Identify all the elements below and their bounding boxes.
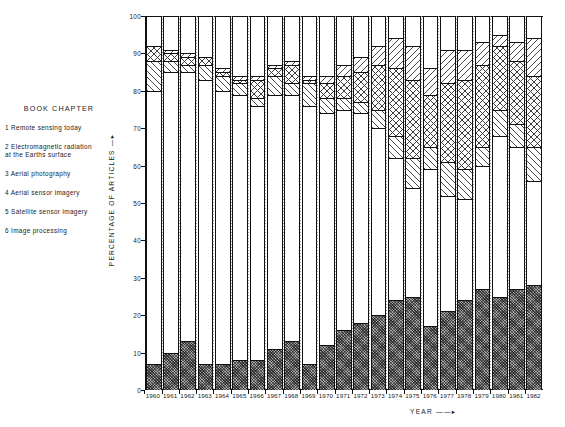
- legend: BOOK CHAPTER 1 Remote sensing today 2 El…: [2, 104, 114, 246]
- bar-segment-ch3: [457, 169, 473, 199]
- x-tick-mark: [162, 390, 163, 394]
- bar-segment-ch3: [336, 98, 352, 109]
- bar-segment-ch6: [509, 16, 525, 42]
- bar-segment-ch6: [284, 16, 300, 61]
- bar-segment-ch2: [526, 181, 542, 286]
- bar-segment-ch5: [492, 35, 508, 46]
- bar-segment-ch6: [388, 16, 404, 38]
- bar-1977: [440, 16, 456, 390]
- bar-segment-ch5: [353, 57, 369, 72]
- bar-segment-ch1: [440, 311, 456, 390]
- x-tick-mark: [456, 390, 457, 394]
- bar-segment-ch6: [371, 16, 387, 46]
- bar-segment-ch1: [457, 300, 473, 390]
- bar-segment-ch2: [388, 158, 404, 300]
- bar-segment-ch6: [163, 16, 179, 50]
- bar-segment-ch2: [353, 113, 369, 322]
- bar-1966: [250, 16, 266, 390]
- bar-segment-ch4: [457, 80, 473, 170]
- bar-segment-ch2: [163, 72, 179, 353]
- bar-segment-ch3: [509, 124, 525, 146]
- bar-1975: [405, 16, 421, 390]
- bar-1961: [163, 16, 179, 390]
- x-tick-mark: [386, 390, 387, 394]
- bar-1962: [180, 16, 196, 390]
- legend-title: BOOK CHAPTER: [4, 104, 114, 113]
- bar-segment-ch2: [457, 199, 473, 300]
- x-tick-mark: [248, 390, 249, 394]
- bar-segment-ch5: [526, 38, 542, 75]
- bar-segment-ch5: [440, 50, 456, 84]
- bar-segment-ch2: [302, 106, 318, 364]
- y-tick-mark: [141, 128, 145, 129]
- legend-item-3: 3 Aerial photography: [2, 170, 114, 178]
- bar-segment-ch6: [267, 16, 283, 65]
- legend-item-4: 4 Aerial sensor imagery: [2, 189, 114, 197]
- x-tick-mark: [421, 390, 422, 394]
- bar-1963: [198, 16, 214, 390]
- bar-segment-ch6: [423, 16, 439, 68]
- x-tick-mark: [438, 390, 439, 394]
- bar-1968: [284, 16, 300, 390]
- bar-segment-ch4: [146, 46, 162, 61]
- bar-segment-ch5: [371, 46, 387, 65]
- y-tick-mark: [141, 240, 145, 241]
- y-tick-mark: [141, 53, 145, 54]
- bar-segment-ch1: [371, 315, 387, 390]
- x-tick-mark: [179, 390, 180, 394]
- x-tick-mark: [473, 390, 474, 394]
- x-axis-title: YEAR ——▸: [410, 408, 456, 416]
- bar-segment-ch3: [353, 102, 369, 113]
- x-tick-mark: [335, 390, 336, 394]
- bar-segment-ch4: [371, 65, 387, 110]
- legend-item-1: 1 Remote sensing today: [2, 124, 114, 132]
- x-tick-mark: [300, 390, 301, 394]
- bar-segment-ch4: [509, 61, 525, 125]
- bar-segment-ch1: [146, 364, 162, 390]
- bar-segment-ch2: [284, 95, 300, 342]
- bar-segment-ch1: [267, 349, 283, 390]
- bar-segment-ch2: [405, 188, 421, 296]
- legend-item-6: 6 Image processing: [2, 227, 114, 235]
- bar-segment-ch6: [492, 16, 508, 35]
- bar-segment-ch3: [526, 147, 542, 181]
- bar-1964: [215, 16, 231, 390]
- bar-segment-ch1: [284, 341, 300, 390]
- y-axis-title: PERCENTAGE OF ARTICLES —▸: [108, 134, 116, 267]
- bar-segment-ch1: [526, 285, 542, 390]
- bar-segment-ch2: [180, 72, 196, 341]
- bar-segment-ch4: [526, 76, 542, 147]
- y-tick-mark: [141, 315, 145, 316]
- bar-1971: [336, 16, 352, 390]
- bar-segment-ch1: [163, 353, 179, 390]
- bar-segment-ch3: [302, 83, 318, 105]
- x-tick-mark: [144, 390, 145, 394]
- x-tick-mark: [231, 390, 232, 394]
- bar-segment-ch5: [215, 68, 231, 72]
- bar-segment-ch6: [353, 16, 369, 57]
- bar-segment-ch4: [319, 83, 335, 98]
- bar-segment-ch2: [215, 91, 231, 364]
- y-tick-mark: [141, 353, 145, 354]
- x-tick-mark: [508, 390, 509, 394]
- bar-segment-ch3: [284, 83, 300, 94]
- bar-segment-ch5: [388, 38, 404, 68]
- bar-segment-ch6: [405, 16, 421, 46]
- bar-segment-ch5: [319, 76, 335, 83]
- bar-segment-ch5: [405, 46, 421, 80]
- x-tick-mark: [490, 390, 491, 394]
- bar-segment-ch6: [198, 16, 214, 57]
- bar-segment-ch4: [475, 65, 491, 147]
- bar-1976: [423, 16, 439, 390]
- bar-segment-ch4: [250, 80, 266, 99]
- bar-segment-ch3: [215, 76, 231, 91]
- bar-segment-ch4: [492, 46, 508, 110]
- x-tick-mark: [404, 390, 405, 394]
- bar-segment-ch4: [232, 80, 248, 84]
- bar-segment-ch2: [336, 110, 352, 331]
- bar-segment-ch5: [336, 65, 352, 76]
- bar-segment-ch6: [146, 16, 162, 46]
- bar-segment-ch1: [180, 341, 196, 390]
- y-tick-mark: [141, 16, 145, 17]
- bar-segment-ch5: [163, 50, 179, 54]
